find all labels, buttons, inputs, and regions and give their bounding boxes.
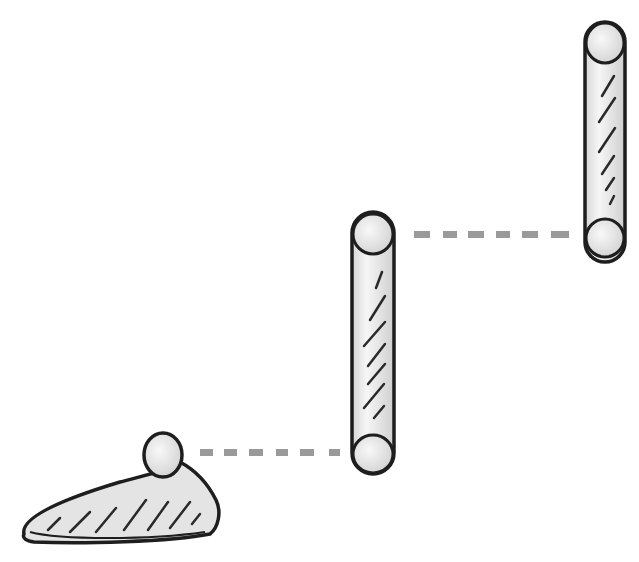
connector-base-to-middle xyxy=(200,449,340,456)
pillar-middle-bottom-cap xyxy=(353,435,393,473)
base-knob xyxy=(144,433,182,477)
base-foot-shape xyxy=(23,433,218,543)
pillar-middle-top-cap xyxy=(353,214,393,254)
pillar-middle xyxy=(352,212,394,474)
pillar-right-top-cap xyxy=(586,23,624,63)
sketch-diagram xyxy=(0,0,639,562)
pillar-right-bottom-cap xyxy=(586,219,624,257)
pillar-right xyxy=(585,22,625,262)
connector-middle-to-right xyxy=(414,231,569,238)
